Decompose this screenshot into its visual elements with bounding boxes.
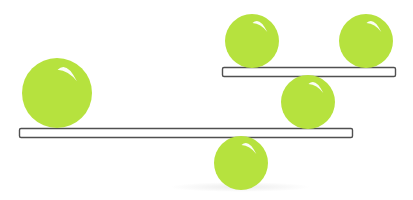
ball-middle — [281, 75, 335, 129]
ball-body — [281, 75, 335, 129]
ball-bottom — [214, 136, 268, 190]
balls — [22, 14, 393, 190]
ball-top-left — [225, 14, 279, 68]
ball-body — [22, 58, 92, 128]
balance-diagram — [0, 0, 413, 200]
lower-plank — [20, 129, 353, 138]
ball-body — [225, 14, 279, 68]
large-ball-left — [22, 58, 92, 128]
ball-top-right — [339, 14, 393, 68]
ball-body — [214, 136, 268, 190]
ball-body — [339, 14, 393, 68]
